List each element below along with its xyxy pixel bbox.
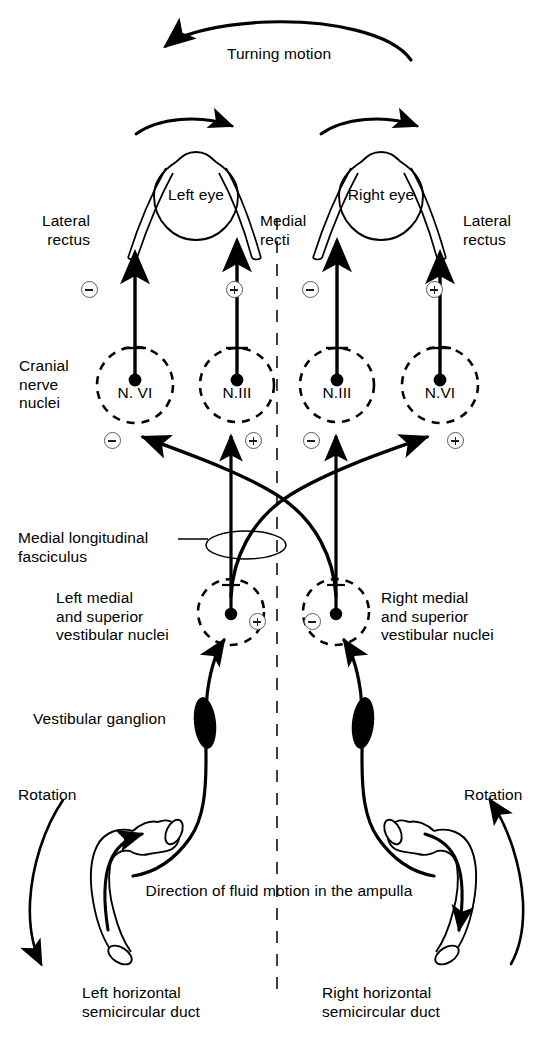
axon-n3-right-to-medial-rectus <box>326 241 348 386</box>
sign-right-medial-rectus <box>302 281 319 298</box>
cranial-nerve-nuclei-label: Cranial nerve nuclei <box>19 357 93 413</box>
sign-right-vestibular-output <box>304 613 321 630</box>
lateral-rectus-right-label: Lateral rectus <box>463 212 551 249</box>
rotation-arrow-left <box>30 800 63 964</box>
nucleus-right-oculomotor-label: N.III <box>305 384 369 403</box>
right-vestibular-nuclei-label: Right medial and superior vestibular nuc… <box>381 589 541 645</box>
sign-n3-left-input <box>245 432 262 449</box>
axon-n6-left-to-lateral-rectus <box>124 253 146 386</box>
fiber-vest-left-to-n6-right-crossing <box>231 437 427 596</box>
right-duct-label: Right horizontal semicircular duct <box>322 984 490 1021</box>
rotation-arrow-right <box>490 800 523 964</box>
left-duct-label: Left horizontal semicircular duct <box>82 984 242 1021</box>
fiber-vest-right-to-n6-left-crossing <box>143 437 336 596</box>
sign-left-vestibular-output <box>249 613 266 630</box>
nucleus-left-oculomotor-label: N.III <box>205 384 269 403</box>
left-eye-label: Left eye <box>154 186 238 205</box>
rotation-right-label: Rotation <box>464 786 548 805</box>
sign-n6-left-input <box>104 432 121 449</box>
vestibular-ganglion-left <box>191 696 218 750</box>
right-eye-label: Right eye <box>339 186 423 205</box>
left-eye-rotation-arrow <box>136 119 232 134</box>
vor-diagram-figure: Turning motion Left eye Right eye Latera… <box>0 0 554 1043</box>
axon-n6-right-to-lateral-rectus <box>429 253 451 386</box>
vestibular-ganglion-label: Vestibular ganglion <box>33 710 193 729</box>
sign-left-medial-rectus <box>226 281 243 298</box>
nucleus-left-abducens-label: N. VI <box>101 384 169 403</box>
axon-n3-left-to-medial-rectus <box>226 241 248 386</box>
nucleus-right-abducens-label: N.VI <box>407 384 473 403</box>
left-vestibular-nuclei-label: Left medial and superior vestibular nucl… <box>56 589 196 645</box>
sign-right-lateral-rectus <box>426 281 443 298</box>
sign-n3-right-input <box>303 432 320 449</box>
rotation-left-label: Rotation <box>18 786 102 805</box>
lateral-rectus-left-label: Lateral rectus <box>6 212 90 249</box>
turning-motion-label: Turning motion <box>209 45 349 64</box>
vestibular-ganglion-right <box>349 696 376 750</box>
mlf-label: Medial longitudinal fasciculus <box>18 529 182 566</box>
fluid-motion-label: Direction of fluid motion in the ampulla <box>119 882 439 901</box>
medial-recti-label: Medial recti <box>260 212 324 249</box>
sign-left-lateral-rectus <box>81 281 98 298</box>
right-eye-rotation-arrow <box>321 119 417 134</box>
sign-n6-right-input <box>447 432 464 449</box>
